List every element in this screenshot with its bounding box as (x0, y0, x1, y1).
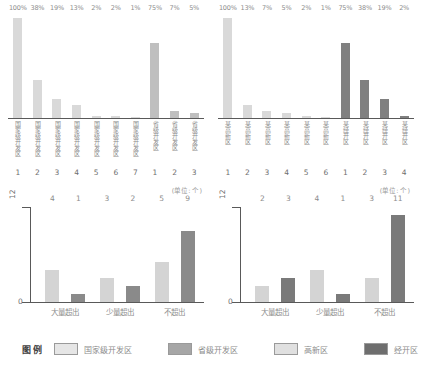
category-text: 省级开发区 (152, 121, 158, 167)
category-text: 国家级开发区 (113, 121, 119, 167)
category-text: 某经开区 (342, 121, 348, 167)
top-right-plot-area (218, 18, 414, 118)
category-label: 大量超出 (38, 306, 93, 320)
bar-slot (67, 18, 87, 118)
top-left-index-labels: 1 2 3 4 5 6 7 1 2 3 (8, 168, 204, 180)
category-label: 少量超出 (303, 306, 358, 320)
bar (243, 105, 252, 118)
bar (52, 99, 61, 118)
bar (72, 105, 81, 118)
index-label: 2 (165, 168, 185, 180)
index-label: 5 (296, 168, 316, 180)
index-label: 6 (316, 168, 336, 180)
data-label: 75% (336, 4, 356, 16)
legend-label: 经开区 (394, 344, 418, 355)
category-label: 国家级开发区 (106, 121, 126, 167)
data-label: 2% (394, 4, 414, 16)
data-label: 1% (316, 4, 336, 16)
category-label: 省级开发区 (145, 121, 165, 167)
category-label: 国家级开发区 (8, 121, 28, 167)
bar-group (357, 207, 412, 302)
data-label: 75% (145, 4, 165, 16)
bar-group (147, 207, 202, 302)
category-text: 某高新区 (225, 121, 231, 167)
legend-item-national: 国家级开发区 (54, 343, 132, 355)
value-group: 3 2 (93, 194, 148, 206)
bar-hitech (255, 286, 269, 302)
bar-slot (126, 18, 146, 118)
category-label: 某高新区 (277, 121, 297, 167)
data-label: 5% (277, 4, 297, 16)
value-label: 9 (181, 194, 195, 206)
top-left-plot-area (8, 18, 204, 118)
index-label: 4 (67, 168, 87, 180)
category-text: 某经开区 (362, 121, 368, 167)
category-text: 某高新区 (303, 121, 309, 167)
top-left-category-labels: 国家级开发区 国家级开发区 国家级开发区 国家级开发区 国家级开发区 国家级开发… (8, 121, 204, 167)
bar (223, 18, 232, 118)
data-label: 19% (47, 4, 67, 16)
legend-swatch-icon (274, 343, 298, 355)
category-label: 某高新区 (257, 121, 277, 167)
index-label: 3 (257, 168, 277, 180)
bar-econdev (336, 294, 350, 302)
y-tick-label-top: 12 (218, 189, 227, 199)
category-text: 省级开发区 (171, 121, 177, 167)
data-label: 7% (165, 4, 185, 16)
y-tick-top (22, 207, 30, 208)
chart-bottom-left: (单位: 个) 4 1 3 2 5 9 (0, 185, 210, 335)
category-label: 少量超出 (93, 306, 148, 320)
index-label: 2 (28, 168, 48, 180)
top-right-data-labels: 100% 13% 7% 5% 2% 1% 75% 38% 19% 2% (218, 4, 414, 16)
category-text: 国家级开发区 (34, 121, 40, 167)
category-label: 某经开区 (355, 121, 375, 167)
category-text: 某经开区 (381, 121, 387, 167)
legend-item-provincial: 省级开发区 (168, 343, 238, 355)
category-text: 某高新区 (323, 121, 329, 167)
category-label: 国家级开发区 (47, 121, 67, 167)
bar-series (38, 207, 202, 302)
bar-provincial (181, 231, 195, 302)
bar-slot (257, 18, 277, 118)
data-label: 2% (86, 4, 106, 16)
index-label: 3 (184, 168, 204, 180)
legend-title: 图例 (22, 343, 44, 356)
category-text: 某高新区 (264, 121, 270, 167)
legend-item-hitech: 高新区 (274, 343, 328, 355)
bar-slot (184, 18, 204, 118)
category-text: 国家级开发区 (93, 121, 99, 167)
bar-group (303, 207, 358, 302)
bottom-right-data-labels: 2 3 4 1 3 11 (248, 194, 412, 206)
bar-hitech (310, 270, 324, 302)
category-text: 某高新区 (244, 121, 250, 167)
bar (341, 43, 350, 118)
index-label: 4 (277, 168, 297, 180)
category-label: 国家级开发区 (28, 121, 48, 167)
legend: 图例 国家级开发区 省级开发区 高新区 经开区 (0, 338, 421, 360)
category-text: 某经开区 (401, 121, 407, 167)
chart-top-left: 100% 38% 19% 13% 2% 2% 1% 75% 7% 5% (0, 0, 210, 185)
bar-slot (316, 18, 336, 118)
bar-provincial (71, 294, 85, 302)
value-label: 4 (310, 194, 324, 206)
bar-national (155, 262, 169, 302)
index-label: 1 (336, 168, 356, 180)
bar-series (8, 18, 204, 118)
y-tick-label-top: 12 (8, 189, 17, 199)
bar (380, 99, 389, 118)
value-group: 4 1 (38, 194, 93, 206)
index-label: 4 (394, 168, 414, 180)
bar-slot (145, 18, 165, 118)
bar-national (100, 278, 114, 302)
bar (360, 80, 369, 118)
bottom-left-data-labels: 4 1 3 2 5 9 (38, 194, 202, 206)
data-label: 13% (67, 4, 87, 16)
y-tick-label-bottom: 0 (18, 297, 23, 306)
index-label: 2 (238, 168, 258, 180)
bar (33, 80, 42, 118)
value-label: 3 (281, 194, 295, 206)
x-axis-line (240, 302, 414, 303)
category-label: 某高新区 (238, 121, 258, 167)
legend-swatch-icon (54, 343, 78, 355)
bar-econdev (281, 278, 295, 302)
